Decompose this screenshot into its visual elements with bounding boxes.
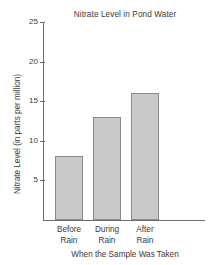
- y-tick-label: 20: [29, 58, 38, 66]
- x-category-label-after-rain: After Rain: [118, 225, 172, 246]
- plot-area: 25 20 15 10 5 Before Rain During Rain: [43, 22, 205, 221]
- y-tick-mark: [40, 62, 45, 63]
- y-tick-mark: [40, 141, 45, 142]
- y-tick-label: 5: [34, 176, 38, 184]
- y-axis-line: [43, 22, 44, 221]
- bar-during-rain: [93, 117, 121, 220]
- chart-title: Nitrate Level in Pond Water: [40, 10, 210, 20]
- bar-after-rain: [131, 93, 159, 219]
- y-tick-label: 10: [29, 137, 38, 145]
- x-axis-line: [43, 220, 205, 221]
- x-axis-title: When the Sample Was Taken: [40, 250, 210, 260]
- y-axis-title: Nitrate Level (in parts per million): [13, 39, 23, 229]
- y-tick-mark: [40, 180, 45, 181]
- y-tick-label: 25: [29, 18, 38, 26]
- x-category-line1: After: [118, 225, 172, 236]
- y-tick-mark: [40, 22, 45, 23]
- bar-before-rain: [55, 156, 83, 219]
- y-tick-label: 15: [29, 97, 38, 105]
- x-category-line2: Rain: [118, 236, 172, 247]
- bar-chart-figure: Nitrate Level in Pond Water Nitrate Leve…: [0, 0, 214, 265]
- y-tick-mark: [40, 101, 45, 102]
